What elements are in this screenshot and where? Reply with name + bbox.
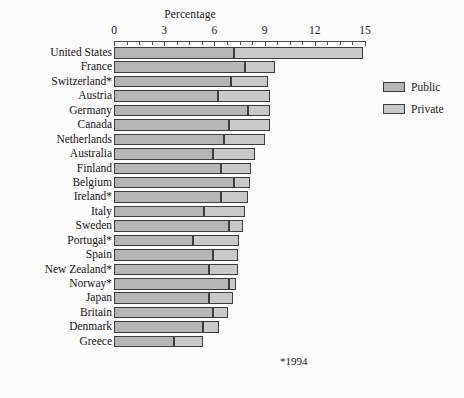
bar-segment-public xyxy=(114,163,221,175)
bar-track xyxy=(114,191,248,203)
bar-segment-private xyxy=(229,278,236,290)
bar-track xyxy=(114,336,203,348)
bar-segment-public xyxy=(114,105,248,117)
bar-segment-private xyxy=(213,307,228,319)
bar-row-label: Germany xyxy=(69,104,112,117)
bar-track xyxy=(114,220,243,232)
x-tick-mark xyxy=(152,41,153,45)
bar-row: Denmark xyxy=(0,320,464,334)
x-tick-mark xyxy=(290,41,291,45)
bar-segment-private xyxy=(209,292,232,304)
bar-track xyxy=(114,119,270,131)
bar-row: Finland xyxy=(0,162,464,176)
bar-row-label: Belgium xyxy=(72,176,112,189)
legend-swatch-public-icon xyxy=(383,82,405,92)
x-tick-mark xyxy=(189,41,190,45)
bar-track xyxy=(114,278,236,290)
bar-track xyxy=(114,249,238,261)
x-tick-label-0: 0 xyxy=(111,24,117,36)
bar-segment-private xyxy=(224,134,264,146)
bar-segment-private xyxy=(204,206,244,218)
x-tick-label-12: 12 xyxy=(309,24,321,36)
x-tick-label-9: 9 xyxy=(262,24,268,36)
x-tick-mark xyxy=(340,41,341,45)
x-tick-label-15: 15 xyxy=(359,24,371,36)
x-tick-mark xyxy=(252,41,253,45)
bar-row: Greece xyxy=(0,335,464,349)
bar-segment-private xyxy=(174,336,202,348)
x-tick-mark xyxy=(227,41,228,45)
x-tick-mark xyxy=(177,41,178,45)
bar-row-label: Switzerland* xyxy=(51,75,112,88)
bar-segment-public xyxy=(114,336,174,348)
bar-segment-private xyxy=(229,220,242,232)
bar-row-label: Italy xyxy=(91,205,112,218)
bar-row-label: Netherlands xyxy=(56,133,112,146)
bar-track xyxy=(114,206,245,218)
bar-track xyxy=(114,235,240,247)
bar-row: Norway* xyxy=(0,277,464,291)
bar-row: France xyxy=(0,60,464,74)
bar-segment-private xyxy=(234,47,363,59)
bar-row-label: United States xyxy=(50,46,112,59)
bar-row-label: Australia xyxy=(70,147,112,160)
bar-row-label: Austria xyxy=(78,89,112,102)
bar-row-label: Denmark xyxy=(69,320,112,333)
bar-track xyxy=(114,61,275,73)
chart-axis-title: Percentage xyxy=(0,8,380,20)
bar-segment-public xyxy=(114,148,213,160)
bar-track xyxy=(114,105,270,117)
bar-segment-public xyxy=(114,220,229,232)
bar-track xyxy=(114,148,255,160)
bar-row: Ireland* xyxy=(0,190,464,204)
bar-row-label: Spain xyxy=(86,248,112,261)
bar-row: Spain xyxy=(0,248,464,262)
bar-row-label: Ireland* xyxy=(74,190,112,203)
bar-track xyxy=(114,321,219,333)
bar-segment-public xyxy=(114,264,209,276)
bar-row-label: New Zealand* xyxy=(45,263,112,276)
x-tick-mark xyxy=(139,41,140,45)
bar-row: Australia xyxy=(0,147,464,161)
bar-segment-private xyxy=(213,249,238,261)
legend-item-private: Private xyxy=(383,100,459,118)
bar-segment-public xyxy=(114,292,209,304)
chart-footnote: *1994 xyxy=(280,355,308,367)
bar-row: Italy xyxy=(0,205,464,219)
bar-segment-private xyxy=(193,235,240,247)
x-tick-mark xyxy=(127,41,128,45)
x-tick-label-6: 6 xyxy=(212,24,218,36)
bar-row-label: Japan xyxy=(86,291,112,304)
x-tick-mark xyxy=(302,41,303,45)
bar-row-label: Britain xyxy=(80,306,112,319)
bar-segment-private xyxy=(213,148,255,160)
bar-track xyxy=(114,76,268,88)
bar-segment-public xyxy=(114,134,224,146)
x-tick-mark xyxy=(202,41,203,45)
legend-label-public: Public xyxy=(411,81,440,93)
bar-row: Netherlands xyxy=(0,133,464,147)
bar-track xyxy=(114,307,228,319)
chart-legend: Public Private xyxy=(383,78,459,122)
x-tick-mark xyxy=(277,41,278,45)
bar-segment-private xyxy=(248,105,270,117)
bar-segment-private xyxy=(221,191,248,203)
legend-label-private: Private xyxy=(411,103,444,115)
bar-segment-private xyxy=(203,321,220,333)
legend-item-public: Public xyxy=(383,78,459,96)
bar-segment-public xyxy=(114,90,218,102)
x-tick-mark xyxy=(327,41,328,45)
bar-track xyxy=(114,163,251,175)
bar-segment-private xyxy=(209,264,237,276)
bar-segment-public xyxy=(114,191,221,203)
bar-track xyxy=(114,134,265,146)
bar-segment-public xyxy=(114,61,245,73)
bar-segment-public xyxy=(114,47,234,59)
bar-segment-private xyxy=(231,76,268,88)
bar-row: Britain xyxy=(0,306,464,320)
bar-row-label: Finland xyxy=(77,162,112,175)
bar-row: New Zealand* xyxy=(0,263,464,277)
bar-segment-private xyxy=(234,177,249,189)
bar-row-label: Canada xyxy=(78,118,112,131)
bar-row: United States xyxy=(0,46,464,60)
